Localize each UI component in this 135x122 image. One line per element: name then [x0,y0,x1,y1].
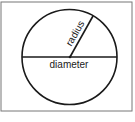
diameter-label: diameter [50,59,90,70]
circle-diagram: radius diameter [0,0,135,122]
center-point [69,56,72,59]
